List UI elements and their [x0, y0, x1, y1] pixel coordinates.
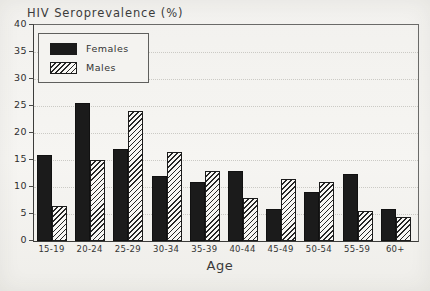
y-tick-label-40: 40: [7, 18, 27, 29]
y-tick-label-10: 10: [7, 180, 27, 191]
x-tick-label-45-49: 45-49: [261, 244, 301, 254]
x-tick-label-40-44: 40-44: [223, 244, 263, 254]
y-tick-mark-20: [29, 132, 34, 133]
x-axis-title: Age: [33, 258, 407, 273]
x-tick-label-50-54: 50-54: [299, 244, 339, 254]
bar-females-35-39: [190, 182, 205, 241]
bar-males-60+: [396, 217, 411, 241]
x-tick-label-30-34: 30-34: [146, 244, 186, 254]
bar-males-40-44: [243, 198, 258, 241]
x-tick-label-35-39: 35-39: [184, 244, 224, 254]
scanned-bar-chart-figure: HIV Seroprevalence (%) Females Males 051…: [0, 0, 430, 291]
bar-males-15-19: [52, 206, 67, 241]
bar-females-25-29: [113, 149, 128, 241]
y-tick-mark-35: [29, 51, 34, 52]
x-tick-label-15-19: 15-19: [32, 244, 72, 254]
bar-males-30-34: [167, 152, 182, 241]
y-tick-mark-5: [29, 213, 34, 214]
males-hatch-swatch: [50, 62, 77, 74]
y-tick-label-35: 35: [7, 45, 27, 56]
bar-females-60+: [381, 209, 396, 241]
bar-females-30-34: [152, 176, 167, 241]
legend-label-females: Females: [86, 43, 129, 54]
bar-males-35-39: [205, 171, 220, 241]
gridline-20: [34, 133, 418, 134]
females-solid-swatch: [50, 43, 77, 55]
y-tick-label-0: 0: [7, 234, 27, 245]
bar-females-50-54: [304, 192, 319, 241]
y-tick-mark-0: [29, 240, 34, 241]
plot-area: Females Males: [33, 24, 419, 242]
y-tick-mark-30: [29, 78, 34, 79]
bar-males-55-59: [358, 211, 373, 241]
y-tick-label-5: 5: [7, 207, 27, 218]
chart-title: HIV Seroprevalence (%): [27, 6, 183, 20]
y-tick-mark-25: [29, 105, 34, 106]
bar-males-25-29: [128, 111, 143, 241]
y-tick-label-25: 25: [7, 99, 27, 110]
bar-males-45-49: [281, 179, 296, 241]
y-tick-mark-40: [29, 24, 34, 25]
y-tick-mark-15: [29, 159, 34, 160]
bar-females-20-24: [75, 103, 90, 241]
bar-females-45-49: [266, 209, 281, 241]
bar-males-20-24: [90, 160, 105, 241]
bar-females-55-59: [343, 174, 358, 242]
bar-males-50-54: [319, 182, 334, 241]
gridline-25: [34, 106, 418, 107]
y-tick-mark-10: [29, 186, 34, 187]
legend-item-males: Males: [50, 62, 148, 74]
x-tick-label-20-24: 20-24: [70, 244, 110, 254]
legend: Females Males: [38, 33, 149, 83]
y-tick-label-20: 20: [7, 126, 27, 137]
bar-females-40-44: [228, 171, 243, 241]
legend-item-females: Females: [50, 43, 148, 55]
x-tick-label-60+: 60+: [375, 244, 415, 254]
x-tick-label-25-29: 25-29: [108, 244, 148, 254]
legend-label-males: Males: [86, 62, 116, 73]
y-tick-label-15: 15: [7, 153, 27, 164]
bar-females-15-19: [37, 155, 52, 241]
y-tick-label-30: 30: [7, 72, 27, 83]
x-tick-label-55-59: 55-59: [337, 244, 377, 254]
